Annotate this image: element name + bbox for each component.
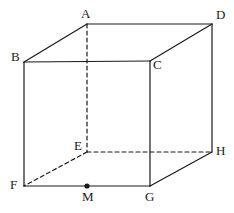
vertex-label-b: B: [11, 50, 20, 63]
cube-drawing-canvas: [0, 0, 234, 213]
cube-edge-cd: [150, 24, 212, 61]
vertex-label-c: C: [153, 58, 162, 71]
vertex-label-a: A: [81, 7, 90, 20]
cube-edge-gh: [150, 152, 212, 186]
vertex-label-h: H: [216, 144, 225, 157]
vertex-label-e: E: [74, 139, 82, 152]
cube-edge-ef: [24, 152, 87, 186]
hidden-edges-group: [24, 24, 212, 186]
cube-figure: ABCDEFGHM: [0, 0, 234, 213]
marked-points-group: [84, 183, 89, 188]
vertex-label-f: F: [10, 178, 17, 191]
cube-edge-ab: [24, 24, 87, 62]
solid-edges-group: [24, 24, 212, 186]
point-label-m: M: [82, 190, 94, 203]
point-marker-m: [84, 183, 89, 188]
vertex-label-g: G: [145, 190, 154, 203]
vertex-label-d: D: [216, 8, 225, 21]
